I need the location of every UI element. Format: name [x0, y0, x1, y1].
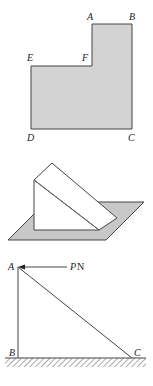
label-F: F	[81, 52, 89, 63]
figure-l-shape: A B E F D C	[26, 11, 135, 143]
figure-wedge-on-plane	[8, 163, 144, 240]
diagram-canvas: A B E F D C A P N B C	[0, 0, 153, 386]
label-B: B	[9, 347, 15, 358]
label-C: C	[134, 347, 141, 358]
figure-triangle-force: A P N B C	[5, 261, 146, 367]
label-A: A	[86, 11, 94, 22]
label-A: A	[7, 261, 15, 272]
ground-hatching	[5, 358, 146, 367]
label-B: B	[129, 11, 135, 22]
l-shape-region	[31, 24, 132, 129]
force-symbol-P: P	[69, 261, 76, 272]
label-D: D	[26, 132, 35, 143]
label-C: C	[128, 132, 135, 143]
force-unit-N: N	[77, 261, 84, 272]
label-E: E	[26, 52, 33, 63]
force-arrow-head	[18, 265, 25, 270]
member-AC	[18, 267, 132, 358]
